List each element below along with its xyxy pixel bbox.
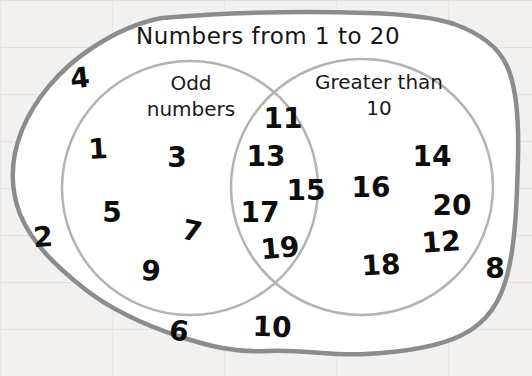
number-11: 11 (264, 102, 303, 135)
greater-than-10-label: Greater than 10 (313, 69, 445, 121)
number-16: 16 (352, 171, 391, 204)
number-2: 2 (32, 220, 54, 254)
number-3: 3 (167, 141, 186, 174)
odd-numbers-label: Odd numbers (135, 70, 247, 122)
number-20: 20 (433, 189, 472, 222)
number-12: 12 (420, 224, 461, 260)
number-1: 1 (87, 132, 108, 166)
number-10: 10 (252, 310, 292, 344)
number-4: 4 (69, 61, 92, 96)
number-19: 19 (259, 230, 301, 266)
number-18: 18 (361, 248, 402, 283)
number-15: 15 (287, 174, 326, 207)
outer-boundary (13, 12, 518, 354)
number-17: 17 (241, 196, 280, 229)
number-14: 14 (413, 140, 452, 173)
number-5: 5 (102, 196, 121, 229)
number-9: 9 (140, 254, 163, 289)
number-8: 8 (485, 252, 504, 285)
venn-diagram: Numbers from 1 to 20 Odd numbers Greater… (0, 0, 532, 376)
number-13: 13 (247, 140, 286, 173)
diagram-title: Numbers from 1 to 20 (136, 23, 400, 49)
